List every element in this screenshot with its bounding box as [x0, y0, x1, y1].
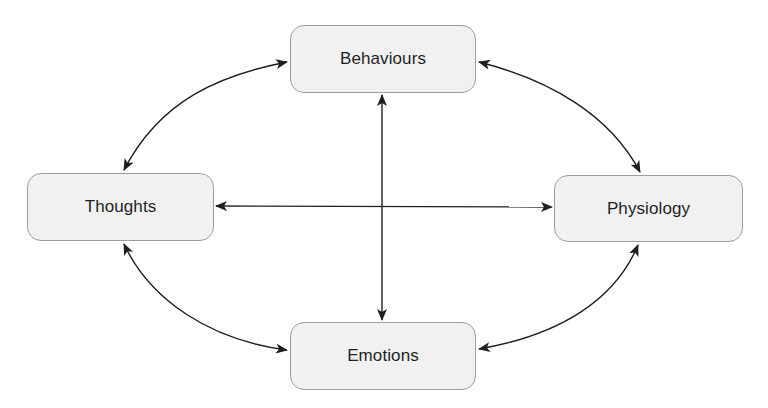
cbt-cycle-diagram: Behaviours Thoughts Physiology Emotions — [0, 0, 768, 408]
node-label: Emotions — [347, 346, 419, 366]
node-label: Physiology — [607, 199, 690, 219]
node-emotions: Emotions — [290, 322, 476, 390]
node-thoughts: Thoughts — [27, 173, 214, 241]
arrow-behaviours-thoughts — [124, 62, 287, 170]
arrow-behaviours-physiology — [479, 62, 640, 172]
node-behaviours: Behaviours — [290, 25, 476, 93]
node-label: Behaviours — [340, 49, 426, 69]
arrow-thoughts-physiology — [216, 206, 552, 207]
arrow-thoughts-emotions — [124, 244, 287, 350]
arrow-physiology-emotions — [479, 245, 638, 349]
node-physiology: Physiology — [554, 175, 743, 242]
node-label: Thoughts — [85, 197, 157, 217]
